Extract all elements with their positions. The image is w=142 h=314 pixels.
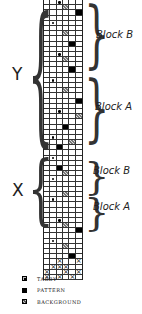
background-swatch-icon: [22, 299, 27, 304]
legend-item-pattern: PATTERN: [22, 285, 81, 296]
y-block-a-label: Block A: [95, 101, 132, 112]
legend-item-background: BACKGROUND: [22, 296, 81, 307]
x-block-a-brace: {: [84, 193, 109, 231]
pattern-swatch-icon: [22, 288, 27, 293]
legend: TABBY PATTERN BACKGROUND: [22, 273, 81, 308]
legend-label: PATTERN: [37, 287, 65, 293]
group-label-x: X: [12, 180, 24, 200]
legend-label: BACKGROUND: [37, 299, 81, 305]
x-block-b-label: Block B: [93, 165, 130, 176]
group-label-y: Y: [12, 64, 22, 84]
legend-item-tabby: TABBY: [22, 273, 81, 284]
legend-label: TABBY: [37, 276, 57, 282]
y-group-brace: {: [28, 0, 38, 148]
y-block-b-label: Block B: [96, 29, 133, 40]
x-group-brace: {: [28, 150, 53, 226]
x-block-a-label: Block A: [93, 201, 130, 212]
tabby-swatch-icon: [22, 276, 27, 281]
